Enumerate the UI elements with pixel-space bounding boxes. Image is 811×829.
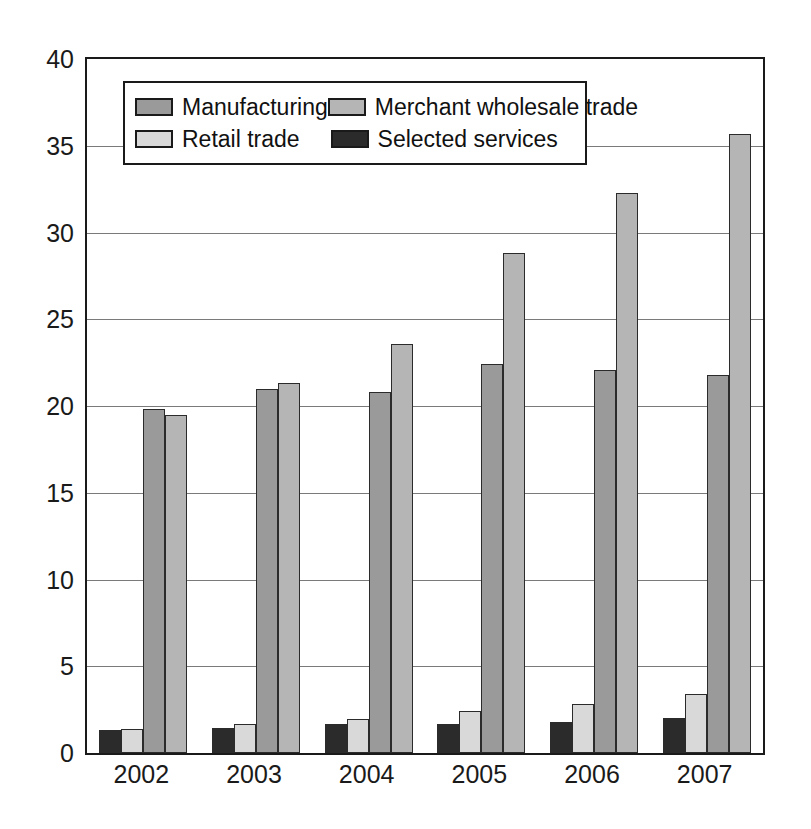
bar — [459, 711, 481, 753]
y-axis-tick-label: 5 — [28, 654, 74, 679]
legend-item-label: Merchant wholesale trade — [375, 96, 638, 119]
bar-group — [663, 59, 751, 753]
y-axis-tick-label: 40 — [28, 47, 74, 72]
legend-swatch-icon — [328, 98, 366, 116]
bar — [369, 392, 391, 753]
bar — [234, 724, 256, 753]
x-axis-tick-label: 2007 — [677, 762, 733, 787]
y-axis-tick-label: 25 — [28, 307, 74, 332]
bar — [165, 415, 187, 753]
legend-item-label: Retail trade — [182, 128, 300, 151]
bar — [663, 718, 685, 753]
bar — [325, 724, 347, 753]
x-axis: 200220032004200520062007 — [85, 762, 765, 802]
bar — [707, 375, 729, 753]
bar — [616, 193, 638, 753]
legend-item-selected-services: Selected services — [331, 128, 575, 151]
bar — [256, 389, 278, 753]
x-axis-tick-label: 2004 — [339, 762, 395, 787]
legend-item-manufacturing: Manufacturing — [135, 96, 328, 119]
bar-chart: 0510152025303540 20022003200420052006200… — [0, 0, 811, 829]
bar — [481, 364, 503, 753]
bar — [550, 722, 572, 753]
bar — [347, 719, 369, 753]
x-axis-tick-label: 2006 — [564, 762, 620, 787]
legend-swatch-icon — [135, 98, 173, 116]
bar — [729, 134, 751, 753]
bar — [121, 729, 143, 753]
y-axis: 0510152025303540 — [10, 57, 74, 755]
legend-item-retail-trade: Retail trade — [135, 128, 331, 151]
y-axis-tick-label: 15 — [28, 480, 74, 505]
bar — [391, 344, 413, 753]
legend-item-label: Manufacturing — [182, 96, 328, 119]
bar — [278, 383, 300, 753]
bar — [99, 730, 121, 753]
bar — [143, 409, 165, 753]
bar — [503, 253, 525, 753]
x-axis-tick-label: 2003 — [226, 762, 282, 787]
legend-row: Manufacturing Merchant wholesale trade — [135, 91, 575, 123]
legend-row: Retail trade Selected services — [135, 123, 575, 155]
bar — [572, 704, 594, 753]
bar — [594, 370, 616, 753]
legend-swatch-icon — [135, 130, 173, 148]
y-axis-tick-label: 30 — [28, 220, 74, 245]
x-axis-tick-label: 2005 — [452, 762, 508, 787]
y-axis-tick-label: 10 — [28, 567, 74, 592]
bar — [685, 694, 707, 753]
chart-legend: Manufacturing Merchant wholesale trade R… — [123, 81, 587, 165]
bar — [212, 728, 234, 753]
y-axis-tick-label: 20 — [28, 394, 74, 419]
legend-item-label: Selected services — [378, 128, 558, 151]
legend-item-merchant-wholesale-trade: Merchant wholesale trade — [328, 96, 578, 119]
y-axis-tick-label: 35 — [28, 133, 74, 158]
y-axis-tick-label: 0 — [28, 741, 74, 766]
x-axis-tick-label: 2002 — [114, 762, 170, 787]
legend-swatch-icon — [331, 130, 369, 148]
bar — [437, 724, 459, 753]
